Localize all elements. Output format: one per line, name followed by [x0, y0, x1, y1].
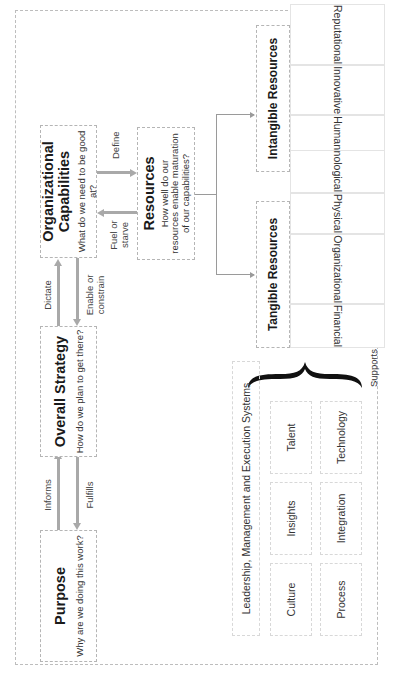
capability-cell-culture: Culture [270, 563, 312, 636]
purpose-box: Purpose Why are we doing this work? [40, 530, 97, 662]
fulfills-arrow [76, 457, 79, 524]
capabilities-title-line1: Organizational [40, 141, 56, 242]
intangible-header-label: Intangible Resources [266, 38, 280, 159]
dictate-label: Dictate [42, 275, 53, 315]
supports-label: Supports [368, 343, 379, 393]
fuel-starve-label: Fuel or starve [108, 217, 130, 253]
capability-cell-insights: Insights [270, 482, 312, 555]
fuel-label-line2: starve [119, 217, 130, 253]
capability-cell-technology: Technology [320, 401, 362, 474]
capabilities-title-line2: Capabilities [56, 151, 72, 232]
leadership-systems-label: Leadership, Management and Execution Sys… [240, 383, 252, 615]
fulfills-label: Fulfills [84, 475, 95, 515]
enable-constrain-label: Enable or constrain [84, 273, 106, 317]
capability-cell-integration: Integration [320, 482, 362, 555]
tangible-item: Physical [290, 193, 385, 234]
purpose-title: Purpose [52, 567, 68, 625]
strategy-title: Overall Strategy [52, 336, 68, 447]
intangible-item: Innovative [290, 65, 385, 115]
tangible-arrowhead [250, 272, 255, 278]
leadership-systems-box: Leadership, Management and Execution Sys… [232, 361, 260, 636]
strategy-box: Overall Strategy How do we plan to get t… [40, 326, 97, 457]
define-label: Define [110, 123, 121, 159]
capabilities-box: Organizational Capabilities What do we n… [40, 125, 97, 258]
fuel-starve-arrow [103, 211, 137, 214]
informs-arrow [57, 458, 60, 530]
informs-label: Informs [42, 475, 53, 515]
intangible-arrowhead [250, 112, 255, 118]
tangible-header-label: Tangible Resources [266, 218, 280, 331]
tangible-items: Financial Organizational Physical Techno… [290, 201, 385, 348]
dictate-arrow [57, 265, 60, 326]
intangible-item: Reputational [290, 4, 385, 65]
resources-connector-stem [195, 194, 217, 195]
enable-constrain-arrow [76, 258, 79, 320]
tangible-header: Tangible Resources [256, 201, 290, 348]
fuel-label-line1: Fuel or [108, 217, 119, 253]
intangible-items: Human Innovative Reputational [290, 40, 385, 151]
intangible-connector [216, 114, 254, 115]
tangible-connector [216, 274, 254, 275]
intangible-header: Intangible Resources [256, 25, 290, 172]
strategy-subtitle: How do we plan to get there? [74, 330, 85, 454]
resources-subtitle-line3: of our capabilities? [181, 133, 192, 253]
resources-connector-bar [216, 114, 217, 275]
resources-title: Resources [141, 156, 157, 230]
tangible-item: Organizational [290, 234, 385, 304]
resources-box: Resources How well do our resources enab… [137, 127, 195, 260]
capability-cell-talent: Talent [270, 401, 312, 474]
capabilities-subtitle: What do we need to be good at? [76, 126, 98, 257]
resources-subtitle: How well do our resources enable maturat… [160, 133, 192, 253]
enable-label-line1: Enable or [84, 273, 95, 317]
enable-label-line2: constrain [95, 273, 106, 317]
define-arrow [97, 171, 131, 174]
intangible-item: Human [290, 115, 385, 151]
diagram-canvas: Purpose Why are we doing this work? Info… [0, 0, 398, 683]
tangible-item: Financial [290, 304, 385, 348]
purpose-subtitle: Why are we doing this work? [74, 535, 85, 656]
capability-cell-process: Process [320, 563, 362, 636]
